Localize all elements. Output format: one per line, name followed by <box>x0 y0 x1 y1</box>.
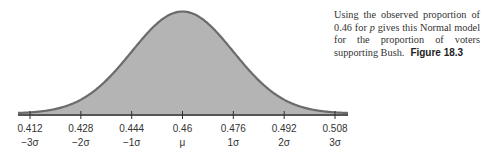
x-tick-value-label: 0.508 <box>322 123 347 134</box>
x-tick-sigma-label: −1σ <box>123 137 141 148</box>
x-axis-ticks: 0.412−3σ0.428−2σ0.444−1σ0.46μ0.4761σ0.49… <box>17 111 347 148</box>
normal-curve-chart: 0.412−3σ0.428−2σ0.444−1σ0.46μ0.4761σ0.49… <box>0 0 360 156</box>
x-tick-value-label: 0.46 <box>173 123 193 134</box>
curve-area-fill <box>18 12 348 116</box>
x-tick-sigma-label: 3σ <box>329 137 342 148</box>
x-tick-sigma-label: 2σ <box>278 137 291 148</box>
figure-label: Figure 18.3 <box>410 47 463 58</box>
x-tick-sigma-label: μ <box>180 137 186 148</box>
x-tick-sigma-label: −2σ <box>72 137 90 148</box>
x-tick-value-label: 0.428 <box>68 123 93 134</box>
x-tick-value-label: 0.412 <box>17 123 42 134</box>
x-tick-sigma-label: 1σ <box>227 137 240 148</box>
figure-caption: Using the observed proportion of 0.46 fo… <box>334 9 480 59</box>
x-tick-sigma-label: −3σ <box>21 137 39 148</box>
x-tick-value-label: 0.444 <box>119 123 144 134</box>
x-tick-value-label: 0.476 <box>221 123 246 134</box>
x-tick-value-label: 0.492 <box>272 123 297 134</box>
